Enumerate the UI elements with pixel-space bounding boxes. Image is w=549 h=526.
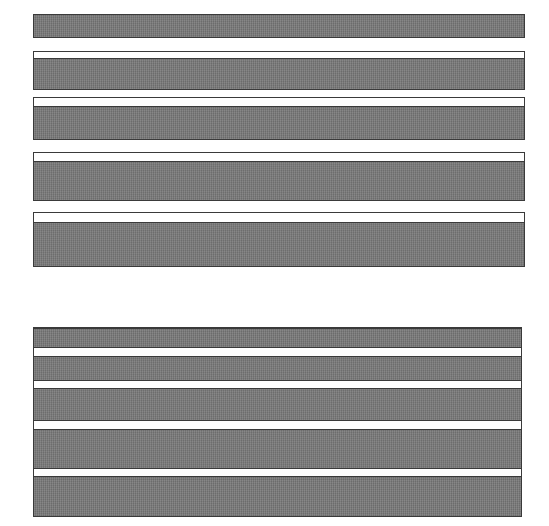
redacted-table-row-label bbox=[34, 389, 35, 390]
redacted-table-block bbox=[33, 327, 522, 517]
redaction-block bbox=[33, 14, 525, 38]
redacted-table-row-label bbox=[34, 477, 35, 478]
document-page bbox=[0, 0, 549, 526]
redaction-fill bbox=[34, 106, 524, 139]
redaction-block-label bbox=[34, 52, 35, 53]
redaction-fill bbox=[34, 222, 524, 266]
redaction-block bbox=[33, 51, 525, 90]
redaction-block-label bbox=[34, 213, 35, 214]
redaction-block bbox=[33, 152, 525, 201]
redaction-block-label bbox=[34, 153, 35, 154]
redacted-table-row bbox=[34, 476, 521, 517]
redacted-table-row-label bbox=[34, 329, 35, 330]
redacted-table-row-label bbox=[34, 357, 35, 358]
redaction-block-label bbox=[34, 98, 35, 99]
redaction-fill bbox=[34, 161, 524, 200]
redacted-table-row bbox=[34, 328, 521, 348]
redacted-table-row-label bbox=[34, 430, 35, 431]
redaction-fill bbox=[34, 14, 524, 37]
redaction-fill bbox=[34, 58, 524, 89]
redaction-block bbox=[33, 212, 525, 267]
page-visible-text bbox=[0, 0, 1, 1]
redacted-table-row bbox=[34, 388, 521, 421]
redacted-table-row bbox=[34, 356, 521, 381]
redaction-block bbox=[33, 97, 525, 140]
redacted-table-row bbox=[34, 429, 521, 469]
